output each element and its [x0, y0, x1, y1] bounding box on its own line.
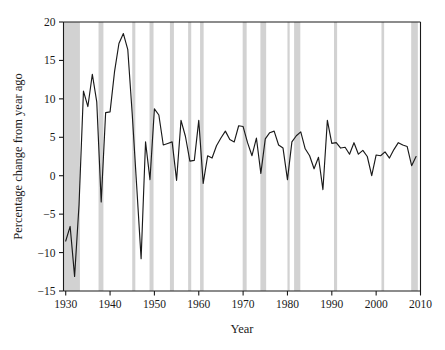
y-tick-label: 15 [44, 54, 56, 66]
gdp-growth-line-chart: 193019401950196019701980199020002010 −15… [0, 0, 445, 350]
x-tick-label: 2000 [365, 298, 388, 310]
chart-figure: 193019401950196019701980199020002010 −15… [0, 0, 445, 350]
x-tick-label: 1990 [320, 298, 343, 310]
y-tick-label: 0 [50, 170, 56, 182]
x-tick-label: 2010 [409, 298, 432, 310]
recession-band [381, 22, 384, 291]
y-tick-label: 20 [44, 16, 56, 28]
y-tick-label: 10 [44, 93, 56, 105]
recession-band [294, 22, 300, 291]
y-tick-label: −5 [43, 208, 55, 220]
recession-band [243, 22, 247, 291]
x-tick-label: 1940 [99, 298, 122, 310]
recession-band [334, 22, 337, 291]
x-axis-title: Year [230, 322, 254, 336]
x-tick-label: 1930 [54, 298, 77, 310]
x-tick-label: 1980 [276, 298, 299, 310]
y-tick-label: −15 [38, 285, 56, 297]
y-axis-title: Percentage change from year ago [11, 73, 25, 240]
x-axis-tick-labels: 193019401950196019701980199020002010 [54, 298, 432, 310]
y-tick-label: 5 [50, 131, 56, 143]
x-tick-label: 1970 [232, 298, 255, 310]
recession-band [287, 22, 289, 291]
x-tick-label: 1960 [187, 298, 210, 310]
y-tick-label: −10 [38, 247, 56, 259]
recession-band [411, 22, 418, 291]
x-tick-label: 1950 [143, 298, 166, 310]
